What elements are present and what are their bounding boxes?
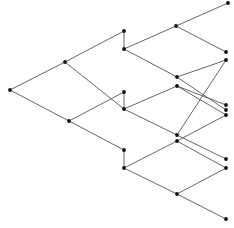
edge-n10-n19 (177, 77, 226, 110)
node-n11 (175, 84, 179, 88)
node-n7 (122, 148, 126, 152)
edge-n9-n15 (176, 3, 228, 26)
edge-n10-n17 (177, 60, 226, 77)
node-n6 (122, 107, 126, 111)
node-n3 (122, 29, 126, 33)
node-n2 (67, 119, 71, 123)
edge-n12-n21 (177, 135, 226, 159)
edge-n12-n17 (177, 60, 226, 135)
edge-n13-n22 (177, 141, 226, 168)
edge-n8-n14 (124, 168, 177, 194)
edge-n13-n20 (177, 115, 226, 141)
tree-diagram (0, 0, 234, 228)
edge-n2-n7 (69, 121, 124, 150)
edge-n1-n3 (65, 31, 124, 62)
node-n0 (8, 88, 12, 92)
node-n13 (175, 139, 179, 143)
edge-n11-n18 (177, 86, 226, 105)
edge-n1-n6 (65, 62, 124, 109)
edge-n0-n1 (10, 62, 65, 90)
node-n1 (63, 60, 67, 64)
edge-n0-n2 (10, 90, 69, 121)
node-n16 (224, 50, 228, 54)
edge-n11-n20 (177, 86, 226, 115)
edge-n4-n10 (124, 49, 177, 77)
node-n21 (224, 157, 228, 161)
edge-n8-n13 (124, 141, 177, 168)
edge-n2-n5 (69, 92, 124, 121)
edge-n9-n16 (176, 26, 226, 52)
node-n18 (224, 103, 228, 107)
node-n10 (175, 75, 179, 79)
edge-n4-n9 (124, 26, 176, 49)
edge-layer (10, 3, 228, 219)
edge-n6-n12 (124, 109, 177, 135)
edge-n6-n11 (124, 86, 177, 109)
node-n20 (224, 113, 228, 117)
edge-n14-n23 (177, 194, 226, 219)
node-n22 (224, 166, 228, 170)
edge-n14-n22 (177, 168, 226, 194)
node-n17 (224, 58, 228, 62)
node-n5 (122, 90, 126, 94)
node-n12 (175, 133, 179, 137)
node-n15 (226, 1, 230, 5)
node-n4 (122, 47, 126, 51)
node-n14 (175, 192, 179, 196)
node-n9 (174, 24, 178, 28)
node-n23 (224, 217, 228, 221)
node-n8 (122, 166, 126, 170)
node-n19 (224, 108, 228, 112)
